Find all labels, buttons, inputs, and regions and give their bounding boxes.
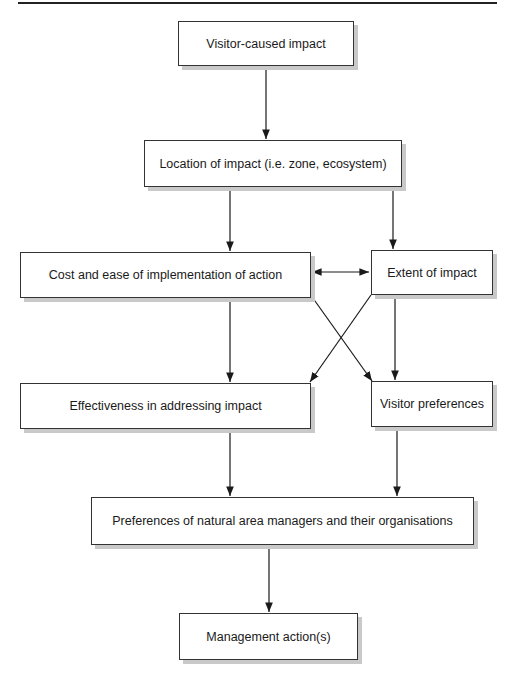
node-label: Visitor-caused impact <box>206 37 325 51</box>
node-label: Cost and ease of implementation of actio… <box>49 268 282 282</box>
node-label: Effectiveness in addressing impact <box>69 399 261 413</box>
node-extent-of-impact: Extent of impact <box>371 250 493 295</box>
node-effectiveness: Effectiveness in addressing impact <box>20 383 311 429</box>
node-location-of-impact: Location of impact (i.e. zone, ecosystem… <box>144 140 402 187</box>
node-visitor-preferences: Visitor preferences <box>371 381 493 427</box>
node-management-actions: Management action(s) <box>179 613 358 660</box>
arrow-extent-to-effectiveness <box>310 295 371 382</box>
node-label: Preferences of natural area managers and… <box>112 514 452 528</box>
node-cost-and-ease: Cost and ease of implementation of actio… <box>20 252 311 298</box>
node-manager-preferences: Preferences of natural area managers and… <box>91 497 474 545</box>
node-label: Location of impact (i.e. zone, ecosystem… <box>159 157 386 171</box>
node-label: Visitor preferences <box>380 397 484 411</box>
node-visitor-caused-impact: Visitor-caused impact <box>178 21 354 66</box>
node-label: Extent of impact <box>387 266 477 280</box>
node-label: Management action(s) <box>206 630 330 644</box>
connector-layer <box>0 0 513 676</box>
